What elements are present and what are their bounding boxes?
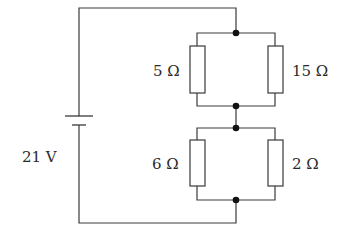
resistor-label-upper-right: 15 Ω (292, 62, 328, 80)
source-voltage-label: 21 V (22, 148, 58, 166)
upper-parallel-pair (190, 30, 283, 110)
junction-node-lower-mid (233, 125, 240, 132)
junction-node-bottom (233, 197, 240, 204)
resistor-label-lower-left: 6 Ω (152, 155, 179, 173)
lower-parallel-pair (190, 125, 283, 204)
bottom-wire (79, 125, 236, 223)
resistor-icon-2ohm (268, 140, 283, 186)
junction-node-top (233, 30, 240, 37)
main-loop-wires (79, 8, 236, 223)
resistor-icon-6ohm (190, 140, 205, 186)
resistor-label-upper-left: 5 Ω (153, 62, 180, 80)
resistor-icon-15ohm (268, 46, 283, 93)
circuit-diagram: 21 V 5 Ω 15 Ω 6 Ω 2 Ω (0, 0, 350, 235)
resistor-label-lower-right: 2 Ω (292, 155, 319, 173)
resistor-icon-5ohm (190, 46, 205, 93)
battery-icon (65, 116, 93, 125)
junction-node-upper-mid (233, 103, 240, 110)
